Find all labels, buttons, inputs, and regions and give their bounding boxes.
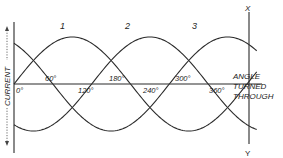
y-marker-label: Y: [245, 149, 251, 158]
arrow-up-icon: [5, 26, 9, 31]
angle-label-180: 180°: [109, 74, 125, 83]
curve-label-3: 3: [192, 21, 197, 31]
angle-label-300: 300°: [175, 74, 191, 83]
arrow-down-icon: [5, 141, 9, 146]
angle-label-60: 60°: [45, 74, 56, 83]
x-marker-label: X: [244, 4, 251, 13]
x-axis-label-line-3: THROUGH: [233, 92, 274, 101]
three-phase-diagram: CURRENT 1 2 3 X Y 60° 180° 300° 0° 120° …: [0, 0, 283, 158]
y-axis-label: CURRENT: [3, 66, 12, 106]
angle-label-360: 360°: [209, 86, 225, 95]
curve-label-2: 2: [124, 21, 130, 31]
angle-label-240: 240°: [142, 86, 159, 95]
angle-label-0: 0°: [16, 86, 23, 95]
x-axis-label-line-1: ANGLE: [232, 72, 261, 81]
angle-label-120: 120°: [78, 86, 94, 95]
curve-label-1: 1: [60, 21, 65, 31]
x-axis-label-line-2: TURNED: [233, 82, 267, 91]
current-axis-label-group: CURRENT: [3, 26, 12, 146]
